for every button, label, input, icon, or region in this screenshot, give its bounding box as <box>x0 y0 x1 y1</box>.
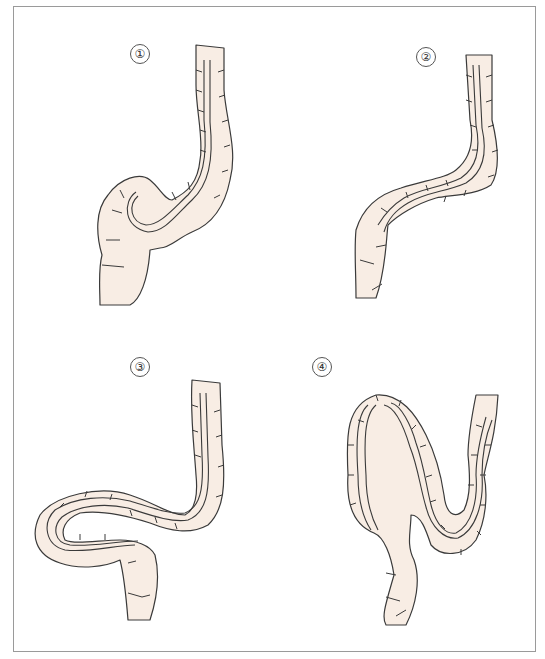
panel-4: ④ <box>276 335 536 655</box>
colon-diagram-2 <box>276 10 536 330</box>
colon-diagram-1 <box>20 10 280 330</box>
colon-diagram-4 <box>276 335 536 655</box>
colon-diagram-3 <box>20 335 280 655</box>
panel-1: ① <box>20 10 280 330</box>
panel-3: ③ <box>20 335 280 655</box>
panel-2: ② <box>276 10 536 330</box>
